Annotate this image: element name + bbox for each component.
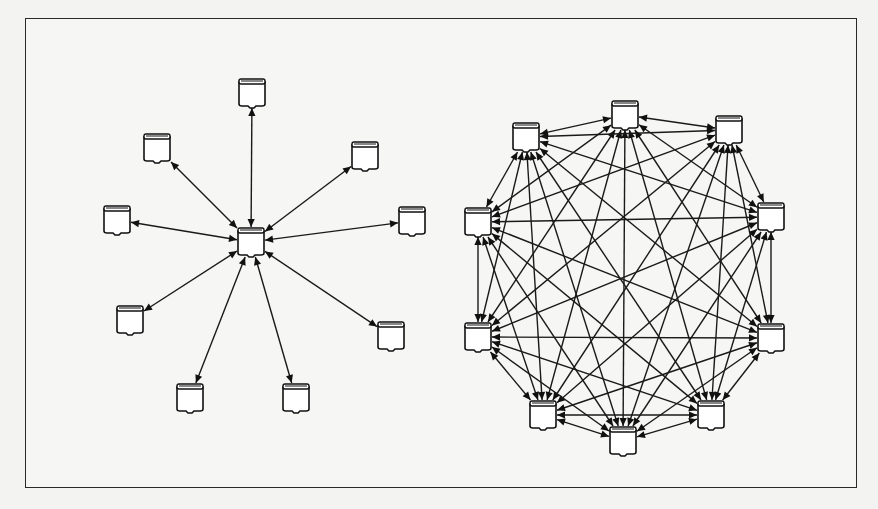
arrowhead-icon xyxy=(239,257,246,266)
arrowhead-icon xyxy=(689,411,697,418)
arrowhead-icon xyxy=(492,211,501,218)
connection-edge xyxy=(767,232,774,323)
connection-edge xyxy=(486,152,517,207)
arrowhead-icon xyxy=(368,319,377,326)
arrowhead-icon xyxy=(612,417,619,426)
database-node-icon xyxy=(117,306,143,335)
arrowhead-icon xyxy=(557,419,566,426)
arrowhead-icon xyxy=(265,224,274,232)
arrowhead-icon xyxy=(748,342,757,349)
database-node-icon xyxy=(612,101,638,130)
arrowhead-icon xyxy=(229,235,237,242)
arrowhead-icon xyxy=(712,145,719,154)
arrowhead-icon xyxy=(557,411,565,418)
arrowhead-icon xyxy=(633,417,640,426)
connection-edge xyxy=(492,142,715,326)
arrowhead-icon xyxy=(639,115,647,122)
arrowhead-icon xyxy=(748,348,757,356)
connection-edge xyxy=(530,152,619,426)
arrowhead-icon xyxy=(748,200,757,208)
arrowhead-icon xyxy=(488,237,495,246)
connection-edge xyxy=(627,145,724,426)
connection-edge xyxy=(474,237,481,322)
arrowhead-icon xyxy=(637,431,646,438)
arrowhead-icon xyxy=(637,424,646,432)
arrowhead-icon xyxy=(530,152,537,161)
arrowhead-icon xyxy=(767,232,774,240)
connection-edge xyxy=(254,257,293,383)
database-node-icon xyxy=(144,134,170,163)
connection-edge xyxy=(637,348,757,432)
database-node-icon xyxy=(610,427,636,456)
database-node-icon xyxy=(465,323,491,352)
database-node-icon xyxy=(399,207,425,236)
arrowhead-icon xyxy=(749,334,757,341)
arrowhead-icon xyxy=(706,135,715,142)
arrowhead-icon xyxy=(600,431,609,438)
arrowhead-icon xyxy=(248,219,255,227)
arrowhead-icon xyxy=(265,251,274,258)
database-node-icon xyxy=(758,324,784,353)
arrowhead-icon xyxy=(557,404,566,411)
arrowhead-icon xyxy=(492,218,500,225)
arrowhead-icon xyxy=(536,152,543,161)
database-node-icon xyxy=(352,142,378,171)
connection-edge xyxy=(536,152,701,400)
star-topology-nodes xyxy=(104,79,425,413)
connection-edge xyxy=(492,125,611,212)
database-node-icon xyxy=(378,322,404,351)
arrowhead-icon xyxy=(688,418,697,425)
arrowhead-icon xyxy=(688,404,697,411)
arrowhead-icon xyxy=(694,391,701,400)
connection-edge xyxy=(488,237,613,426)
arrowhead-icon xyxy=(540,141,549,148)
connection-edge xyxy=(639,115,715,131)
connection-edge xyxy=(131,220,237,242)
database-hub-icon xyxy=(238,228,264,257)
database-node-icon xyxy=(177,384,203,413)
diagram-canvas xyxy=(0,0,878,509)
connection-edge xyxy=(730,145,770,323)
arrowhead-icon xyxy=(532,391,539,400)
connection-edge xyxy=(628,130,708,400)
network-topology-diagram xyxy=(0,0,878,509)
full-mesh-topology-edges xyxy=(474,115,774,438)
database-node-icon xyxy=(283,384,309,413)
arrowhead-icon xyxy=(723,391,731,400)
database-node-icon xyxy=(465,208,491,237)
arrowhead-icon xyxy=(492,204,501,212)
arrowhead-icon xyxy=(524,152,531,160)
arrowhead-icon xyxy=(600,423,609,431)
connection-edge xyxy=(248,108,256,227)
arrowhead-icon xyxy=(724,145,731,153)
arrowhead-icon xyxy=(228,251,237,258)
connection-edge xyxy=(171,162,237,228)
arrowhead-icon xyxy=(195,374,202,383)
database-node-icon xyxy=(758,203,784,232)
database-node-icon xyxy=(698,401,724,430)
arrowhead-icon xyxy=(538,392,545,400)
arrowhead-icon xyxy=(488,313,495,322)
arrowhead-icon xyxy=(754,314,761,323)
arrowhead-icon xyxy=(492,333,500,340)
connection-edge xyxy=(637,418,697,438)
arrowhead-icon xyxy=(144,304,153,311)
connection-edge xyxy=(265,167,351,232)
arrowhead-icon xyxy=(265,236,273,243)
database-node-icon xyxy=(716,116,742,145)
connection-edge xyxy=(557,411,697,418)
connection-edge xyxy=(492,333,757,341)
arrowhead-icon xyxy=(606,417,613,426)
arrowhead-icon xyxy=(480,313,487,322)
arrowhead-icon xyxy=(714,391,721,400)
arrowhead-icon xyxy=(131,220,139,227)
connection-edge xyxy=(265,220,398,242)
database-node-icon xyxy=(104,206,130,235)
arrowhead-icon xyxy=(749,214,757,221)
arrowhead-icon xyxy=(730,145,737,154)
arrowhead-icon xyxy=(248,108,255,116)
connection-edge xyxy=(195,257,245,383)
database-node-icon xyxy=(530,401,556,430)
arrowhead-icon xyxy=(635,130,642,139)
arrowhead-icon xyxy=(474,237,481,245)
